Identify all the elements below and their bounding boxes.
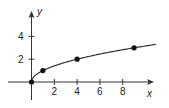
x-tick-label: 6	[97, 86, 103, 97]
x-tick-label: 2	[52, 86, 58, 97]
y-tick-label: 4	[18, 31, 24, 42]
ticks: 246824	[18, 31, 126, 97]
sqrt-function-chart: 246824 x y	[0, 0, 169, 108]
axes	[8, 11, 154, 100]
sqrt-curve	[32, 44, 156, 82]
data-point-marker	[29, 79, 34, 84]
y-axis-label: y	[36, 6, 43, 17]
x-axis-label: x	[146, 88, 153, 99]
x-tick-label: 8	[120, 86, 126, 97]
data-point-marker	[132, 45, 137, 50]
x-tick-label: 4	[74, 86, 80, 97]
data-point-marker	[75, 57, 80, 62]
y-tick-label: 2	[18, 54, 24, 65]
data-point-marker	[40, 68, 45, 73]
data-points	[29, 45, 137, 84]
